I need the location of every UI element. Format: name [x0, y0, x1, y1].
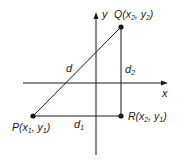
- point-q-dot: [118, 24, 123, 29]
- segment-d2-label: d2: [125, 63, 135, 76]
- x-axis-arrow-icon: [161, 81, 168, 86]
- point-q-label: Q(x2, y2): [114, 8, 153, 21]
- segment-d1-label: d1: [74, 118, 84, 131]
- x-axis-label: x: [161, 87, 168, 99]
- point-p-label: P(x1, y1): [12, 121, 50, 134]
- point-r-label: R(x2, y1): [128, 110, 167, 123]
- segment-d-label: d: [66, 62, 73, 74]
- point-r-dot: [118, 113, 123, 118]
- distance-formula-diagram: y x Q(x2, y2) P(x1, y1) R(x2, y1) d d1 d…: [0, 0, 177, 160]
- point-p-dot: [30, 113, 35, 118]
- y-axis-arrow-icon: [94, 12, 99, 19]
- y-axis-label: y: [101, 8, 109, 20]
- segment-d: [33, 27, 121, 116]
